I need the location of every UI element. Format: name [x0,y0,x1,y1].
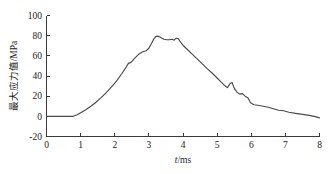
series-line-stress [47,36,320,118]
x-tick-label: 7 [283,140,288,150]
x-tick-label: 3 [147,140,152,150]
ticks-group [47,16,320,137]
y-tick-label: 40 [33,71,43,81]
y-tick-label: 80 [33,31,43,41]
y-tick-label: 20 [33,91,43,101]
x-tick-label: 8 [317,140,322,150]
axes-group [47,16,320,137]
x-axis-title: t/ms [175,155,192,165]
x-tick-label: 0 [44,140,49,150]
data-series-group [47,36,320,118]
x-tick-label: 1 [78,140,83,150]
y-tick-label: 0 [37,112,42,122]
x-tick-label: 2 [112,140,117,150]
x-tick-label: 6 [249,140,254,150]
y-tick-label: 60 [33,51,43,61]
x-axis-title-units: /ms [177,155,191,165]
y-tick-label: -20 [29,132,42,142]
tick-labels-group: -20020406080100012345678 [28,11,322,150]
y-axis-title: 最大应力值/MPa [8,40,19,111]
chart-canvas: -20020406080100012345678 t/ms最大应力值/MPa [0,0,331,174]
figure-container: -20020406080100012345678 t/ms最大应力值/MPa [0,0,331,174]
x-tick-label: 5 [215,140,220,150]
y-tick-label: 100 [28,11,43,21]
x-tick-label: 4 [181,140,186,150]
